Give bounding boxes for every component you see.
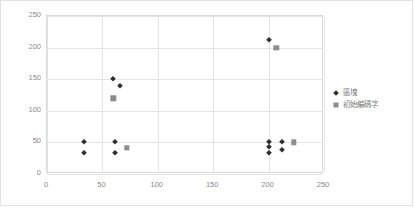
y-axis-tick-label: 200 bbox=[15, 43, 41, 51]
y-axis-tick-label: 100 bbox=[15, 106, 41, 114]
data-point-series-1 bbox=[110, 76, 116, 82]
data-point-series-2 bbox=[291, 140, 296, 145]
data-point-series-1 bbox=[279, 147, 285, 153]
data-point-series-2 bbox=[111, 95, 116, 100]
x-axis-tick-label: 0 bbox=[31, 181, 61, 189]
y-axis-tick-label: 150 bbox=[15, 74, 41, 82]
gridline-vertical bbox=[324, 16, 325, 172]
data-point-series-1 bbox=[111, 139, 117, 145]
gridline-vertical bbox=[213, 16, 214, 172]
gridline-vertical bbox=[102, 16, 103, 172]
data-point-series-1 bbox=[111, 150, 117, 156]
gridline-vertical bbox=[47, 16, 48, 172]
chart-legend: 區塊初始編碼字 bbox=[332, 89, 378, 109]
diamond-marker-icon bbox=[332, 89, 340, 97]
data-point-series-2 bbox=[274, 45, 279, 50]
gridline-horizontal bbox=[47, 111, 322, 112]
data-point-series-1 bbox=[80, 139, 86, 145]
square-marker-icon bbox=[332, 101, 340, 109]
data-point-series-1 bbox=[265, 150, 271, 156]
y-axis-tick-label: 0 bbox=[15, 169, 41, 177]
gridline-vertical bbox=[158, 16, 159, 172]
plot-area bbox=[46, 15, 323, 173]
data-point-series-2 bbox=[124, 145, 129, 150]
data-point-series-1 bbox=[279, 139, 285, 145]
data-point-series-1 bbox=[80, 150, 86, 156]
legend-item-label: 初始編碼字 bbox=[343, 101, 378, 109]
gridline-horizontal bbox=[47, 174, 322, 175]
gridline-horizontal bbox=[47, 48, 322, 49]
data-point-series-1 bbox=[265, 37, 271, 43]
legend-item-label: 區塊 bbox=[343, 89, 357, 97]
y-axis-tick-label: 250 bbox=[15, 11, 41, 19]
y-axis-tick-label: 50 bbox=[15, 137, 41, 145]
x-axis-tick-label: 200 bbox=[253, 181, 283, 189]
scatter-chart: 050100150200250 050100150200250 區塊初始編碼字 bbox=[0, 0, 413, 206]
legend-item[interactable]: 區塊 bbox=[332, 89, 378, 97]
x-axis-tick-label: 50 bbox=[86, 181, 116, 189]
gridline-horizontal bbox=[47, 79, 322, 80]
x-axis-tick-label: 150 bbox=[197, 181, 227, 189]
x-axis-tick-label: 250 bbox=[308, 181, 338, 189]
data-point-series-1 bbox=[117, 82, 123, 88]
x-axis-tick-label: 100 bbox=[142, 181, 172, 189]
legend-item[interactable]: 初始編碼字 bbox=[332, 101, 378, 109]
gridline-horizontal bbox=[47, 16, 322, 17]
